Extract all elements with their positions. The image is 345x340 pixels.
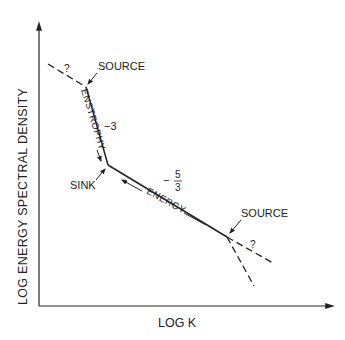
slope-shallow-numerator: 5 [175, 169, 181, 180]
slope-steep-label: −3 [104, 120, 117, 132]
source-right-pointer [230, 220, 241, 233]
source-top-pointer [88, 73, 97, 84]
slope-shallow-sign: − [163, 174, 169, 186]
source-top-label: SOURCE [98, 60, 145, 72]
sink-label: SINK [70, 179, 96, 191]
source-right-label: SOURCE [241, 207, 288, 219]
y-axis-label: LOG ENERGY SPECTRAL DENSITY [16, 87, 30, 305]
energy-flow-arrow [122, 180, 142, 191]
x-axis-label: LOG K [158, 316, 197, 330]
enstrophy-flow-arrow [97, 150, 101, 161]
unknown-top-label: ? [64, 63, 70, 74]
energy-label: ENERGY [145, 185, 188, 216]
slope-shallow-denominator: 3 [175, 182, 181, 193]
spectrum-diagram: LOG ENERGY SPECTRAL DENSITY LOG K SOURCE… [0, 0, 345, 340]
energy-flow-tail [184, 213, 206, 225]
unknown-right-label: ? [250, 239, 256, 250]
sink-pointer [96, 169, 105, 180]
